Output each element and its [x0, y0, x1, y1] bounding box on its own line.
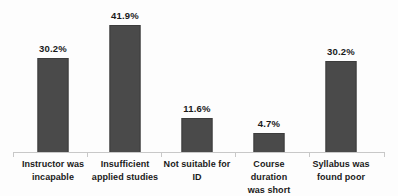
bar-chart: 30.2% 41.9% 11.6% 4.7% 30.2% Ins [0, 0, 398, 196]
bar-insufficient-applied-studies [110, 25, 141, 153]
x-axis-label-instructor-was-incapable: Instructor was incapable [17, 156, 89, 196]
x-axis-label-line: Course duration [234, 158, 304, 184]
plot-area: 30.2% 41.9% 11.6% 4.7% 30.2% [0, 0, 398, 153]
bar-course-duration-was-short [254, 133, 285, 153]
bar-value-label: 30.2% [327, 46, 355, 57]
x-axis-label-line: found poor [306, 171, 376, 184]
bar-value-label: 41.9% [111, 10, 139, 21]
bar-value-label: 4.7% [258, 118, 280, 129]
bar-not-suitable-for-id [182, 118, 213, 153]
x-axis-label-syllabus-was-found-poor: Syllabus was found poor [305, 156, 377, 196]
bar-group-syllabus-was-found-poor: 30.2% [305, 0, 377, 153]
x-axis-label-line: applied studies [90, 171, 160, 184]
bar-instructor-was-incapable [38, 58, 69, 153]
bar-group-instructor-was-incapable: 30.2% [17, 0, 89, 153]
x-axis-label-line: was short [234, 184, 304, 196]
x-axis-label-line: ID [162, 171, 232, 184]
x-axis-label-insufficient-applied-studies: Insufficient applied studies [89, 156, 161, 196]
x-axis-label-line: Syllabus was [306, 158, 376, 171]
x-axis-label-course-duration-was-short: Course duration was short [233, 156, 305, 196]
x-axis-category-labels: Instructor was incapable Insufficient ap… [0, 156, 398, 196]
bar-value-label: 11.6% [183, 103, 210, 114]
x-axis-label-line: incapable [18, 171, 88, 184]
bar-syllabus-was-found-poor [326, 61, 357, 153]
bar-group-not-suitable-for-id: 11.6% [161, 0, 233, 153]
x-axis-label-line: Instructor was [18, 158, 88, 171]
x-axis-line [13, 152, 385, 153]
bar-group-insufficient-applied-studies: 41.9% [89, 0, 161, 153]
bar-group-course-duration-was-short: 4.7% [233, 0, 305, 153]
bar-value-label: 30.2% [39, 43, 67, 54]
x-axis-label-line: Not suitable for [162, 158, 232, 171]
x-axis-label-line: Insufficient [90, 158, 160, 171]
x-axis-label-not-suitable-for-id: Not suitable for ID [161, 156, 233, 196]
